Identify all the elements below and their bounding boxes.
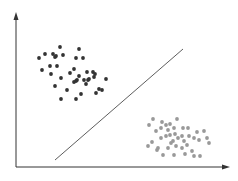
data-point: [187, 134, 191, 138]
data-point: [61, 53, 65, 57]
data-point: [59, 76, 63, 80]
data-point: [186, 126, 190, 130]
data-point: [166, 128, 170, 132]
data-point: [168, 122, 172, 126]
data-point: [104, 77, 108, 81]
class-a-cluster: [37, 45, 108, 101]
data-point: [77, 74, 81, 78]
axes: [14, 12, 231, 170]
data-point: [150, 140, 154, 144]
y-axis-arrow-icon: [14, 12, 19, 20]
data-point: [85, 70, 89, 74]
data-point: [192, 154, 196, 158]
data-point: [54, 54, 58, 58]
class-b-cluster: [146, 117, 211, 158]
data-point: [37, 56, 41, 60]
data-point: [192, 136, 196, 140]
data-point: [185, 143, 189, 147]
data-point: [180, 146, 184, 150]
separator-line: [55, 49, 183, 160]
data-point: [94, 91, 98, 95]
data-point: [195, 130, 199, 134]
data-point: [154, 129, 158, 133]
data-point: [82, 78, 86, 82]
x-axis-arrow-icon: [222, 165, 230, 170]
data-point: [92, 75, 96, 79]
data-point: [182, 139, 186, 143]
data-point: [151, 117, 155, 121]
data-point: [81, 56, 85, 60]
data-point: [161, 153, 165, 157]
data-point: [164, 134, 168, 138]
data-point: [72, 67, 76, 71]
data-point: [87, 77, 91, 81]
data-point: [48, 64, 52, 68]
data-point: [207, 141, 211, 145]
data-point: [169, 141, 173, 145]
data-point: [181, 126, 185, 130]
data-point: [74, 56, 78, 60]
data-point: [172, 153, 176, 157]
data-point: [198, 154, 202, 158]
data-point: [65, 88, 69, 92]
data-point: [180, 134, 184, 138]
data-point: [172, 126, 176, 130]
data-point: [176, 136, 180, 140]
data-point: [43, 52, 47, 56]
data-point: [159, 126, 163, 130]
data-point: [55, 64, 59, 68]
data-point: [75, 78, 79, 82]
data-point: [168, 133, 172, 137]
scatter-diagram: [0, 0, 238, 181]
data-point: [146, 144, 150, 148]
data-point: [100, 88, 104, 92]
data-point: [74, 97, 78, 101]
data-point: [49, 72, 53, 76]
data-point: [205, 136, 209, 140]
data-point: [147, 123, 151, 127]
data-point: [173, 132, 177, 136]
data-point: [84, 82, 88, 86]
data-point: [164, 123, 168, 127]
data-point: [53, 84, 57, 88]
data-point: [155, 148, 159, 152]
data-point: [166, 146, 170, 150]
data-point: [160, 120, 164, 124]
data-point: [77, 47, 81, 51]
data-point: [197, 138, 201, 142]
decision-boundary: [55, 49, 183, 160]
data-point: [174, 144, 178, 148]
data-point: [183, 152, 187, 156]
data-point: [159, 136, 163, 140]
data-point: [202, 129, 206, 133]
data-point: [79, 92, 83, 96]
data-point: [175, 117, 179, 121]
data-point: [40, 68, 44, 72]
data-point: [68, 71, 72, 75]
data-point: [58, 45, 62, 49]
data-point: [190, 149, 194, 153]
data-point: [59, 97, 63, 101]
